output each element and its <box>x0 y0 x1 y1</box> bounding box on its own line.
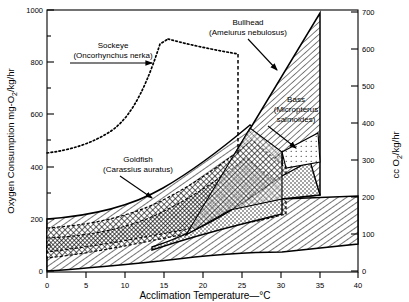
ytick-left-400: 400 <box>30 163 43 172</box>
x-axis-title: Acclimation Temperature—°C <box>139 290 270 301</box>
xtick-25: 25 <box>238 281 246 290</box>
right-axis: 700 600 500 400 300 200 100 0 cc O2/kg/h… <box>351 8 403 276</box>
chart-figure: 1000 800 600 400 200 0 Oxygen Consumptio… <box>0 0 409 302</box>
ytick-left-600: 600 <box>30 110 43 119</box>
annotation-bass-genus: (Micropterus <box>274 105 318 114</box>
svg-text:Oxygen Consumption mg-O2/kg/hr: Oxygen Consumption mg-O2/kg/hr <box>5 68 18 213</box>
ytick-right-200: 200 <box>362 193 375 202</box>
ytick-right-700: 700 <box>362 8 375 17</box>
ytick-left-1000: 1000 <box>26 6 43 15</box>
ytick-left-800: 800 <box>30 58 43 67</box>
xtick-20: 20 <box>199 281 207 290</box>
xtick-40: 40 <box>354 281 362 290</box>
oxygen-consumption-chart: 1000 800 600 400 200 0 Oxygen Consumptio… <box>0 0 409 302</box>
ytick-right-400: 400 <box>362 119 375 128</box>
annotation-goldfish-species: (Carassius auratus) <box>103 165 173 174</box>
y-axis-title-right: cc O2/kg/hr <box>390 131 403 178</box>
svg-text:cc O2/kg/hr: cc O2/kg/hr <box>390 131 403 178</box>
xtick-5: 5 <box>84 281 88 290</box>
annotation-sockeye-species: (Oncorhynchus nerka) <box>73 51 152 60</box>
xtick-0: 0 <box>45 281 49 290</box>
y-axis-title-left: Oxygen Consumption mg-O2/kg/hr <box>5 68 18 213</box>
annotation-bullhead-species: (Ameiurus nebulosus) <box>209 28 287 37</box>
annotation-bass-species: salmoides) <box>277 115 316 124</box>
ytick-right-300: 300 <box>362 156 375 165</box>
ytick-right-0: 0 <box>362 267 366 276</box>
xtick-30: 30 <box>277 281 285 290</box>
ytick-right-500: 500 <box>362 82 375 91</box>
xtick-15: 15 <box>160 281 168 290</box>
xtick-35: 35 <box>316 281 324 290</box>
xtick-10: 10 <box>121 281 129 290</box>
annotation-bass-common: Bass <box>287 95 305 104</box>
ytick-right-100: 100 <box>362 230 375 239</box>
ytick-left-0: 0 <box>39 267 43 276</box>
annotation-goldfish-common: Goldfish <box>123 155 152 164</box>
ytick-left-200: 200 <box>30 215 43 224</box>
x-axis: 0 5 10 15 20 25 30 35 40 Acclimation Tem… <box>45 272 362 301</box>
annotation-sockeye-common: Sockeye <box>98 41 129 50</box>
annotation-bullhead-common: Bullhead <box>232 18 263 27</box>
ytick-right-600: 600 <box>362 45 375 54</box>
